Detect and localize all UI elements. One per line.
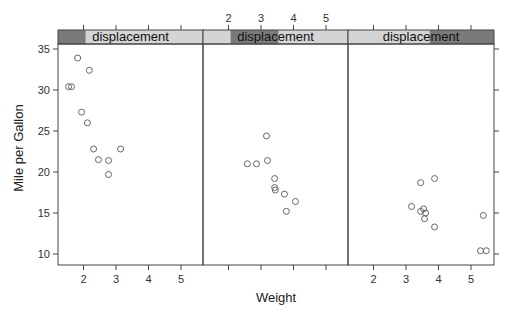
y-tick-label: 20 bbox=[38, 166, 50, 178]
x-tick-label: 4 bbox=[145, 273, 151, 285]
y-tick-label: 15 bbox=[38, 207, 50, 219]
data-point bbox=[244, 161, 250, 167]
data-point bbox=[422, 216, 428, 222]
strip-label: displacement bbox=[237, 29, 314, 44]
data-point bbox=[118, 146, 124, 152]
data-point bbox=[483, 248, 489, 254]
data-point bbox=[418, 180, 424, 186]
y-tick-label: 25 bbox=[38, 125, 50, 137]
x-tick-label: 5 bbox=[468, 273, 474, 285]
data-point bbox=[265, 158, 271, 164]
data-point bbox=[79, 109, 85, 115]
data-point bbox=[84, 120, 90, 126]
x-tick-label: 3 bbox=[403, 273, 409, 285]
shingle-range-indicator bbox=[58, 30, 86, 44]
x-tick-label: 2 bbox=[80, 273, 86, 285]
data-point bbox=[75, 55, 81, 61]
data-point bbox=[86, 67, 92, 73]
data-point bbox=[292, 199, 298, 205]
data-point bbox=[264, 133, 270, 139]
x-tick-label: 5 bbox=[323, 12, 329, 24]
panel-frame bbox=[203, 44, 348, 265]
x-axis-label: Weight bbox=[256, 290, 297, 305]
data-point bbox=[253, 161, 259, 167]
y-tick-label: 35 bbox=[38, 43, 50, 55]
panel-1: displacement2345 bbox=[58, 25, 203, 285]
panel-frame bbox=[348, 44, 494, 265]
data-point bbox=[283, 208, 289, 214]
x-tick-label: 4 bbox=[435, 273, 441, 285]
x-tick-label: 2 bbox=[370, 273, 376, 285]
data-point bbox=[432, 224, 438, 230]
x-tick-label: 2 bbox=[225, 12, 231, 24]
y-axis-label: Mile per Gallon bbox=[11, 104, 26, 191]
data-point bbox=[106, 158, 112, 164]
data-point bbox=[432, 176, 438, 182]
panel-3: displacement2345 bbox=[348, 25, 494, 285]
data-point bbox=[281, 191, 287, 197]
panel-frame bbox=[58, 44, 203, 265]
y-tick-label: 30 bbox=[38, 84, 50, 96]
data-point bbox=[480, 212, 486, 218]
data-point bbox=[106, 171, 112, 177]
data-point bbox=[272, 176, 278, 182]
x-tick-label: 3 bbox=[113, 273, 119, 285]
panels: displacement2345displacement2345displace… bbox=[38, 12, 499, 285]
strip-label: displacement bbox=[92, 29, 169, 44]
panel-2: displacement2345 bbox=[203, 12, 348, 270]
y-tick-label: 10 bbox=[38, 248, 50, 260]
x-tick-label: 5 bbox=[178, 273, 184, 285]
data-point bbox=[409, 203, 415, 209]
x-tick-label: 4 bbox=[290, 12, 296, 24]
x-tick-label: 3 bbox=[258, 12, 264, 24]
data-point bbox=[95, 157, 101, 163]
data-point bbox=[477, 248, 483, 254]
data-point bbox=[91, 146, 97, 152]
lattice-scatter-chart: displacement2345displacement2345displace… bbox=[0, 0, 509, 321]
strip-label: displacement bbox=[383, 29, 460, 44]
